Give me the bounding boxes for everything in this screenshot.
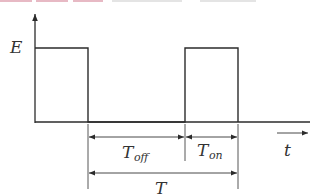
t-on-label-sub: on xyxy=(209,149,223,162)
y-axis-label-E: E xyxy=(9,37,23,57)
pulse-waveform xyxy=(35,48,310,122)
period-label: T xyxy=(155,178,168,195)
period-dimension: T xyxy=(89,173,237,195)
x-axis-label-t: t xyxy=(284,140,291,160)
time-axis-indicator: t xyxy=(277,133,308,160)
t-on-dimension: T on xyxy=(186,137,237,162)
pulse-waveform-diagram: E T off T on T t xyxy=(0,0,320,195)
t-off-dimension: T off xyxy=(89,137,184,164)
t-off-label-sub: off xyxy=(134,151,151,164)
